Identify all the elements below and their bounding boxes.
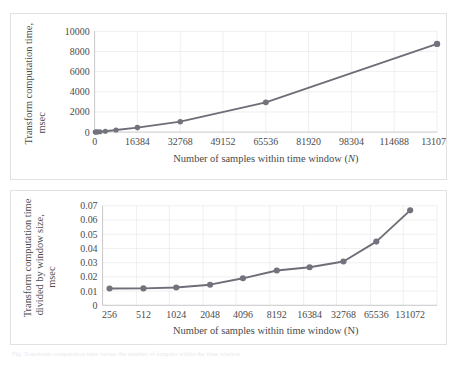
chart-transform-computation-time: Transform computation time, msec 10000 8…: [11, 14, 446, 179]
data-point: [307, 264, 313, 270]
x-axis-title: Number of samples within time window (N): [173, 153, 359, 165]
x-tick-label: 2048: [200, 309, 220, 320]
y-axis-title-line1: Transform computation time: [22, 198, 33, 317]
data-point: [407, 207, 413, 213]
x-tick-label: 32768: [331, 309, 356, 320]
data-point: [263, 99, 269, 105]
chart-panel-transform-time-per-window-size: Transform computation time divided by wi…: [10, 190, 447, 345]
data-point: [113, 127, 118, 132]
x-tick-label: 512: [136, 309, 151, 320]
data-point: [373, 239, 379, 245]
data-point: [240, 275, 246, 281]
data-point: [173, 284, 179, 290]
x-tick-label: 131072: [421, 136, 446, 147]
data-point: [177, 119, 183, 125]
x-tick-label: 0: [92, 136, 97, 147]
y-tick-label: 2000: [70, 106, 90, 117]
x-tick-label: 256: [102, 309, 117, 320]
page-caption: Fig. Transform computation time versus t…: [12, 350, 452, 363]
data-point: [106, 285, 112, 291]
y-tick-label: 0.01: [80, 286, 97, 297]
y-tick-label: 0.02: [80, 271, 97, 282]
y-tick-label: 0.07: [80, 200, 97, 211]
y-tick-label: 0.03: [80, 257, 97, 268]
y-axis-title-line2: divided by window size,: [34, 214, 45, 315]
x-tick-label: 8192: [267, 309, 287, 320]
data-point: [434, 41, 440, 47]
y-tick-label: 8000: [70, 46, 90, 57]
y-tick-label: 4000: [70, 86, 90, 97]
y-axis-title-line1: Transform computation time,: [23, 23, 34, 144]
y-tick-label: 0.04: [80, 243, 97, 254]
chart-panel-transform-computation-time: Transform computation time, msec 10000 8…: [10, 13, 447, 180]
data-point: [135, 125, 141, 131]
x-tick-label: 16384: [297, 309, 322, 320]
data-point: [140, 285, 146, 291]
x-tick-label: 98304: [339, 136, 364, 147]
x-tick-label: 81920: [296, 136, 321, 147]
x-tick-label: 65536: [253, 136, 278, 147]
data-point: [340, 258, 346, 264]
x-axis-title: Number of samples within time window (N): [173, 325, 358, 337]
x-tick-label: 114688: [380, 136, 410, 147]
y-axis-title-line2: msec: [36, 112, 47, 134]
x-tick-label: 131072: [395, 309, 425, 320]
y-tick-label: 0.06: [80, 215, 97, 226]
chart-transform-time-per-window-size: Transform computation time divided by wi…: [11, 191, 446, 344]
y-tick-label: 0.05: [80, 229, 97, 240]
x-tick-label: 16384: [125, 136, 150, 147]
y-tick-label: 0: [93, 300, 98, 311]
data-point: [97, 129, 102, 134]
y-tick-label: 0: [85, 127, 90, 138]
data-point: [207, 282, 213, 288]
data-point: [103, 129, 108, 134]
x-tick-label: 32768: [168, 136, 193, 147]
data-point: [274, 267, 280, 273]
x-tick-label: 1024: [166, 309, 186, 320]
y-tick-label: 6000: [70, 66, 90, 77]
x-tick-label: 4096: [233, 309, 253, 320]
x-tick-label: 49152: [211, 136, 236, 147]
y-tick-label: 10000: [65, 26, 90, 37]
y-axis-title-line3: msec: [46, 266, 57, 288]
x-tick-label: 65536: [364, 309, 389, 320]
